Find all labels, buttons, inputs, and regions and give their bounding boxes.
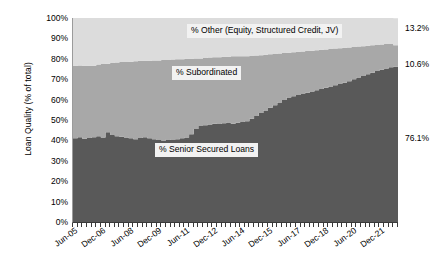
series-label-senior-secured: % Senior Secured Loans: [155, 143, 258, 157]
y-axis-tick-label: 10%: [30, 197, 68, 206]
endpoint-value-senior-secured: 76.1%: [405, 134, 429, 143]
y-axis-tick-label: 70%: [30, 75, 68, 84]
stacked-area-chart: Loan Quality (% of total) 100%90%80%70%6…: [0, 0, 445, 266]
x-axis-tick-labels: Jun-05Dec-06Jun-08Dec-09Jun-11Dec-12Jun-…: [0, 226, 445, 266]
endpoint-value-other: 13.2%: [405, 24, 429, 33]
y-axis-tick-label: 100%: [30, 14, 68, 23]
stacked-area-canvas: [73, 18, 398, 222]
y-axis-tick-label: 30%: [30, 157, 68, 166]
y-axis-tick-label: 50%: [30, 116, 68, 125]
endpoint-value-subordinated: 10.6%: [405, 60, 429, 69]
x-axis-tick-label: Jun-05: [26, 226, 80, 266]
plot-area: [72, 18, 398, 223]
y-axis-tick-label: 20%: [30, 177, 68, 186]
series-label-subordinated: % Subordinated: [172, 66, 241, 80]
y-axis-tick-label: 60%: [30, 95, 68, 104]
y-axis-tick-label: 80%: [30, 55, 68, 64]
y-axis-tick-label: 40%: [30, 136, 68, 145]
y-axis-tick-label: 0%: [30, 218, 68, 227]
series-label-other: % Other (Equity, Structured Credit, JV): [187, 24, 342, 38]
y-axis-tick-labels: 100%90%80%70%60%50%40%30%20%10%0%: [30, 18, 68, 222]
y-axis-tick-label: 90%: [30, 34, 68, 43]
